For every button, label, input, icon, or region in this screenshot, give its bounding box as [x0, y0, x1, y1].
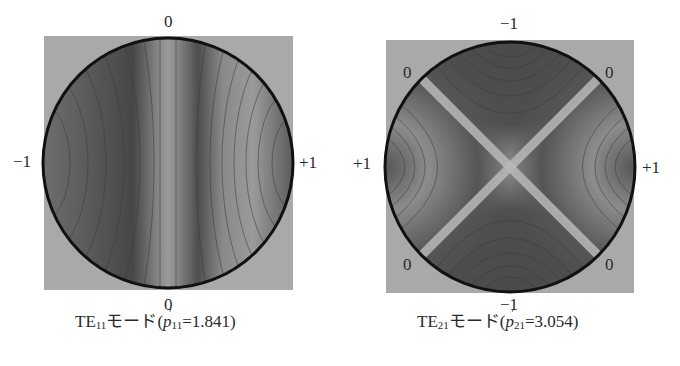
- te11-label-top: 0: [164, 13, 173, 30]
- te21-param-value: =3.054): [525, 312, 579, 331]
- te21-panel: −1 −1 +1 +1 0 0 0 0 TE21モード(p′21=3.054): [340, 0, 680, 366]
- te21-label-top: −1: [500, 15, 518, 32]
- te21-param-subscript: 21: [514, 319, 525, 331]
- te21-label-bottom-left: 0: [403, 256, 412, 273]
- te11-label-left: −1: [13, 153, 31, 170]
- te21-field-plot: [340, 0, 680, 300]
- te11-label-right: +1: [299, 154, 317, 171]
- te11-field-plot: [0, 0, 340, 300]
- te11-caption: TE11モード(p′11=1.841): [75, 312, 236, 335]
- te21-label-top-left: 0: [403, 64, 412, 81]
- te21-label-right: +1: [642, 159, 660, 176]
- te11-param-subscript: 11: [172, 319, 183, 331]
- te21-label-top-right: 0: [605, 64, 614, 81]
- te11-param-value: =1.841): [182, 312, 236, 331]
- te11-mode-subscript: 11: [96, 319, 107, 331]
- te21-mode-suffix: モード: [449, 312, 500, 331]
- te21-mode-prefix: TE: [417, 312, 438, 331]
- te21-label-left: +1: [353, 155, 371, 172]
- te21-label-bottom: −1: [500, 296, 518, 313]
- te21-param-var: p′: [505, 312, 514, 331]
- te11-param-var: p′: [163, 312, 172, 331]
- te21-mode-subscript: 21: [438, 319, 449, 331]
- te21-caption: TE21モード(p′21=3.054): [417, 312, 578, 335]
- te11-mode-suffix: モード: [106, 312, 157, 331]
- te21-label-bottom-right: 0: [605, 256, 614, 273]
- te11-mode-prefix: TE: [75, 312, 96, 331]
- te11-panel: 0 0 −1 +1 TE11モード(p′11=1.841): [0, 0, 340, 366]
